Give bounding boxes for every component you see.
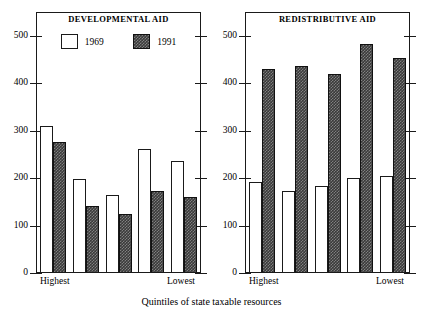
- legend-label-1969: 1969: [85, 37, 104, 47]
- bar-group: [106, 13, 132, 272]
- bar-group: [138, 13, 164, 272]
- bar-1969-4th: [347, 178, 360, 272]
- y-axis-label: 300: [223, 126, 237, 136]
- bar-1969-highest: [249, 182, 262, 272]
- bar-1969-2nd: [282, 191, 295, 272]
- bar-groups-developmental: [37, 13, 200, 272]
- bar-1991-4th: [360, 44, 373, 272]
- chart-panel-redistributive: REDISTRIBUTIVE AID 0100200300400500: [245, 12, 410, 273]
- bar-1969-3rd: [106, 195, 119, 272]
- panel-title: DEVELOPMENTAL AID: [36, 14, 201, 24]
- y-axis-label: 100: [14, 221, 28, 231]
- plot-area-developmental: [37, 13, 200, 272]
- x-axis-labels-redistributive: Highest Lowest: [245, 276, 410, 290]
- bar-1969-4th: [138, 149, 151, 272]
- x-label-lowest: Lowest: [167, 276, 195, 286]
- bar-groups-redistributive: [246, 13, 409, 272]
- bar-1969-2nd: [73, 179, 86, 272]
- chart-panel-developmental: DEVELOPMENTAL AID 1969 1991 010020030040…: [36, 12, 201, 273]
- legend-swatch-1969: [61, 34, 78, 49]
- x-label-highest: Highest: [249, 276, 279, 286]
- y-axis-label: 400: [223, 78, 237, 88]
- y-axis-tick: [239, 273, 251, 274]
- bar-group: [347, 13, 373, 272]
- y-axis-label: 200: [223, 173, 237, 183]
- bar-1969-highest: [40, 126, 53, 272]
- bar-1969-3rd: [315, 186, 328, 272]
- y-axis-tick-right: [195, 273, 207, 274]
- panel-title: REDISTRIBUTIVE AID: [245, 14, 410, 24]
- bar-1991-highest: [262, 69, 275, 272]
- chart-legend: 1969 1991: [46, 34, 191, 49]
- bar-1991-4th: [151, 191, 164, 272]
- legend-entry-1969: 1969: [61, 34, 104, 49]
- bar-group: [315, 13, 341, 272]
- legend-swatch-1991: [133, 34, 150, 49]
- bar-1991-2nd: [86, 206, 99, 272]
- bar-1969-lowest: [380, 176, 393, 272]
- y-axis-label: 500: [14, 31, 28, 41]
- legend-label-1991: 1991: [157, 37, 176, 47]
- bar-group: [282, 13, 308, 272]
- x-label-lowest: Lowest: [376, 276, 404, 286]
- bar-1991-3rd: [119, 214, 132, 272]
- bar-1991-highest: [53, 142, 66, 273]
- bar-1991-lowest: [184, 197, 197, 272]
- bar-1991-lowest: [393, 58, 406, 272]
- axis-caption: Quintiles of state taxable resources: [0, 296, 423, 307]
- y-axis-label: 100: [223, 221, 237, 231]
- bar-group: [249, 13, 275, 272]
- y-axis-label: 300: [14, 126, 28, 136]
- y-axis-label: 0: [23, 268, 28, 278]
- bar-1991-2nd: [295, 66, 308, 272]
- bar-group: [73, 13, 99, 272]
- plot-area-redistributive: [246, 13, 409, 272]
- bar-group: [380, 13, 406, 272]
- y-axis-label: 400: [14, 78, 28, 88]
- bar-1991-3rd: [328, 74, 341, 272]
- bar-group: [40, 13, 66, 272]
- x-label-highest: Highest: [40, 276, 70, 286]
- figure: DEVELOPMENTAL AID 1969 1991 010020030040…: [0, 0, 423, 315]
- x-axis-labels-developmental: Highest Lowest: [36, 276, 201, 290]
- bar-group: [171, 13, 197, 272]
- bar-1969-lowest: [171, 161, 184, 272]
- y-axis-tick-right: [404, 273, 416, 274]
- y-axis-tick: [30, 273, 42, 274]
- y-axis-label: 0: [232, 268, 237, 278]
- legend-entry-1991: 1991: [133, 34, 176, 49]
- y-axis-label: 200: [14, 173, 28, 183]
- y-axis-label: 500: [223, 31, 237, 41]
